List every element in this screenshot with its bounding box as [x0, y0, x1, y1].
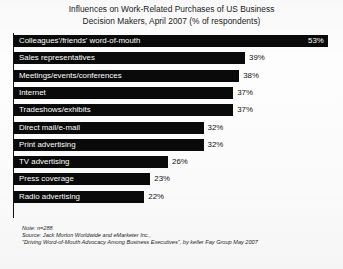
- footnote-note: Note: n=288: [22, 225, 332, 232]
- chart-title-line-1: Influences on Work-Related Purchases of …: [0, 4, 343, 16]
- bar-value-label: 37%: [237, 104, 253, 116]
- bar-value-label: 39%: [249, 52, 265, 64]
- chart-footnote: Note: n=288 Source: Jack Morton Worldwid…: [22, 225, 332, 247]
- bar-category-label: Sales representatives: [19, 52, 95, 64]
- bar-category-label: Internet: [19, 87, 46, 99]
- footnote-study: "Driving Word-of-Mouth Advocacy Among Bu…: [22, 239, 332, 246]
- bar-category-label: Tradeshows/exhibits: [19, 104, 91, 116]
- bar-row: Tradeshows/exhibits37%: [14, 104, 328, 116]
- bar-value-label: 53%: [308, 35, 324, 47]
- bar-row: TV advertising26%: [14, 156, 328, 168]
- bar-value-label: 32%: [208, 122, 224, 134]
- footnote-source: Source: Jack Morton Worldwide and eMarke…: [22, 232, 332, 239]
- bar-value-label: 23%: [154, 173, 170, 185]
- bar-chart-plot-area: Colleagues'/friends' word-of-mouth53%Sal…: [13, 33, 331, 218]
- bar-row: Internet37%: [14, 87, 328, 99]
- chart-title-line-2: Decision Makers, April 2007 (% of respon…: [0, 16, 343, 28]
- bar-category-label: TV advertising: [19, 156, 69, 168]
- bar-value-label: 37%: [237, 87, 253, 99]
- bar-row: Radio advertising22%: [14, 191, 328, 203]
- bar-row: Sales representatives39%: [14, 52, 328, 64]
- bar-category-label: Meetings/events/conferences: [19, 70, 122, 82]
- bar-row: Colleagues'/friends' word-of-mouth53%: [14, 35, 328, 47]
- bar-category-label: Print advertising: [19, 139, 76, 151]
- bar-value-label: 26%: [172, 156, 188, 168]
- bar: [14, 87, 233, 99]
- bar-value-label: 32%: [208, 139, 224, 151]
- bar-row: Meetings/events/conferences38%: [14, 70, 328, 82]
- bar-category-label: Direct mail/e-mail: [19, 122, 80, 134]
- bar-category-label: Radio advertising: [19, 191, 80, 203]
- bar-row: Direct mail/e-mail32%: [14, 122, 328, 134]
- chart-title: Influences on Work-Related Purchases of …: [0, 4, 343, 27]
- bar-value-label: 38%: [243, 70, 259, 82]
- bar-category-label: Press coverage: [19, 173, 74, 185]
- bar-value-label: 22%: [148, 191, 164, 203]
- chart-page: Influences on Work-Related Purchases of …: [0, 0, 343, 269]
- bar-row: Press coverage23%: [14, 173, 328, 185]
- bar-row: Print advertising32%: [14, 139, 328, 151]
- bar-category-label: Colleagues'/friends' word-of-mouth: [19, 35, 140, 47]
